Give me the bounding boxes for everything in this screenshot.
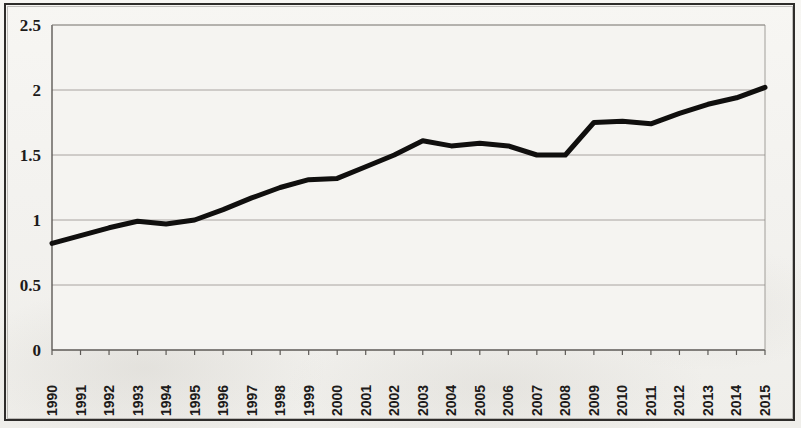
y-tick-label-1: 1 <box>33 211 42 230</box>
y-axis-tick-labels: 00.511.522.5 <box>20 16 41 360</box>
x-tick-label-1993: 1993 <box>130 385 146 416</box>
x-tick-label-2012: 2012 <box>671 385 687 416</box>
x-tick-label-2003: 2003 <box>415 385 431 416</box>
plot-area-background <box>52 25 765 350</box>
x-tick-label-1991: 1991 <box>73 385 89 416</box>
x-axis-ticks <box>52 350 765 355</box>
x-tick-label-2002: 2002 <box>386 385 402 416</box>
x-tick-label-2013: 2013 <box>700 385 716 416</box>
x-tick-label-1996: 1996 <box>215 385 231 416</box>
y-tick-label-2.5: 2.5 <box>20 16 41 35</box>
x-tick-label-2000: 2000 <box>329 385 345 416</box>
x-tick-label-1997: 1997 <box>244 385 260 416</box>
y-tick-label-0.5: 0.5 <box>20 276 41 295</box>
y-tick-label-0: 0 <box>33 341 42 360</box>
x-tick-label-1994: 1994 <box>158 385 174 416</box>
x-tick-label-2011: 2011 <box>643 385 659 416</box>
x-tick-label-2005: 2005 <box>472 385 488 416</box>
line-chart: 00.511.522.5 199019911992199319941995199… <box>0 0 801 428</box>
x-tick-label-2009: 2009 <box>586 385 602 416</box>
y-tick-label-2: 2 <box>33 81 42 100</box>
x-tick-label-1995: 1995 <box>187 385 203 416</box>
x-tick-label-2004: 2004 <box>443 385 459 416</box>
x-tick-label-2001: 2001 <box>358 385 374 416</box>
y-tick-label-1.5: 1.5 <box>20 146 41 165</box>
chart-figure: 00.511.522.5 199019911992199319941995199… <box>0 0 801 428</box>
x-tick-label-2014: 2014 <box>728 385 744 416</box>
x-tick-label-1998: 1998 <box>272 385 288 416</box>
x-tick-label-2006: 2006 <box>500 385 516 416</box>
x-tick-label-2008: 2008 <box>557 385 573 416</box>
x-tick-label-2010: 2010 <box>614 385 630 416</box>
x-axis-tick-labels: 1990199119921993199419951996199719981999… <box>44 385 773 416</box>
x-tick-label-2015: 2015 <box>757 385 773 416</box>
x-tick-label-1999: 1999 <box>301 385 317 416</box>
plot-background <box>52 25 765 350</box>
x-tick-label-2007: 2007 <box>529 385 545 416</box>
x-tick-label-1990: 1990 <box>44 385 60 416</box>
x-tick-label-1992: 1992 <box>101 385 117 416</box>
